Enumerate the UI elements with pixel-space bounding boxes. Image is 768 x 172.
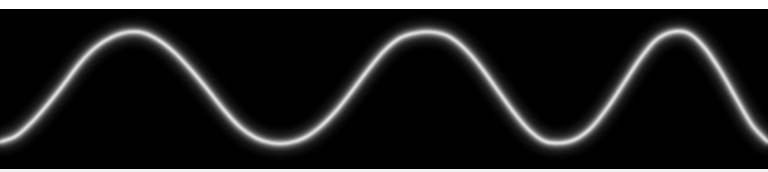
waveform-figure — [0, 0, 768, 172]
sine-wave-plot — [0, 8, 768, 169]
plot-area — [0, 8, 768, 169]
top-white-band — [0, 0, 768, 9]
bottom-white-band — [0, 169, 768, 172]
